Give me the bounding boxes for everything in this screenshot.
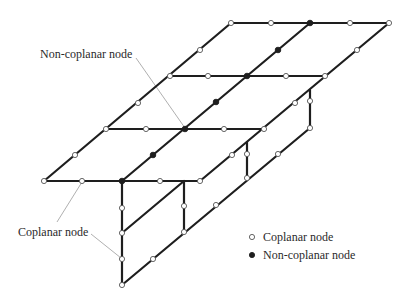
coplanar-node-icon <box>292 100 297 105</box>
leader-line <box>91 234 121 258</box>
legend-symbols <box>249 234 254 257</box>
coplanar-node-icon <box>197 47 202 52</box>
coplanar-annotation: Coplanar node <box>18 225 88 239</box>
noncoplanar-node-icon <box>275 47 281 53</box>
coplanar-node-icon <box>213 202 218 207</box>
leader-line <box>57 182 82 222</box>
coplanar-node-icon <box>283 73 288 78</box>
coplanar-node-icon <box>354 47 359 52</box>
coplanar-node-icon <box>103 126 108 131</box>
coplanar-node-icon <box>119 256 124 261</box>
coplanar-node-icon <box>79 178 84 183</box>
coplanar-node-icon <box>119 230 124 235</box>
coplanar-node-icon <box>386 20 391 25</box>
frame-members <box>44 23 389 285</box>
coplanar-node-icon <box>268 20 273 25</box>
coplanar-node-icon <box>181 229 186 234</box>
coplanar-node-icon <box>150 256 155 261</box>
legend-noncoplanar-label: Non-coplanar node <box>263 248 355 262</box>
coplanar-node-icon <box>72 152 77 157</box>
noncoplanar-node-icon <box>244 73 250 79</box>
noncoplanar-annotation: Non-coplanar node <box>40 47 132 61</box>
legend-coplanar-label: Coplanar node <box>263 230 333 244</box>
coplanar-node-icon <box>307 98 312 103</box>
legend-noncoplanar-icon <box>249 252 254 257</box>
coplanar-node-icon <box>205 73 210 78</box>
frame-member <box>122 181 184 233</box>
coplanar-node-icon <box>135 100 140 105</box>
coplanar-node-icon <box>244 175 249 180</box>
coplanar-node-icon <box>143 126 148 131</box>
noncoplanar-node-icon <box>150 152 156 158</box>
coplanar-node-icon <box>322 73 327 78</box>
coplanar-node-icon <box>167 73 172 78</box>
coplanar-node-icon <box>347 20 352 25</box>
noncoplanar-node-icon <box>307 20 313 26</box>
coplanar-node-icon <box>275 151 280 156</box>
coplanar-node-icon <box>119 205 124 210</box>
noncoplanar-node-icon <box>119 178 125 184</box>
coplanar-node-icon <box>197 178 202 183</box>
noncoplanar-node-icon <box>213 99 219 105</box>
coplanar-node-icon <box>244 151 249 156</box>
coplanar-node-icon <box>41 178 46 183</box>
coplanar-node-icon <box>229 152 234 157</box>
coplanar-node-icon <box>157 178 162 183</box>
coplanar-node-icon <box>221 126 226 131</box>
coplanar-node-icon <box>181 203 186 208</box>
coplanar-node-icon <box>307 125 312 130</box>
coplanar-node-icon <box>119 282 124 287</box>
legend-coplanar-icon <box>249 234 254 239</box>
coplanar-node-icon <box>228 20 233 25</box>
coplanar-node-icon <box>261 126 266 131</box>
noncoplanar-node-icon <box>182 126 188 132</box>
